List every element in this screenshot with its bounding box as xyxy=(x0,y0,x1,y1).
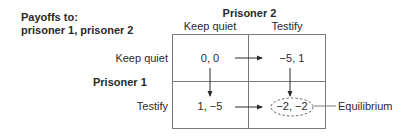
equilibrium-ellipse-icon xyxy=(271,98,313,116)
diagram-overlay xyxy=(0,0,401,138)
equilibrium-label: Equilibrium xyxy=(338,100,392,113)
